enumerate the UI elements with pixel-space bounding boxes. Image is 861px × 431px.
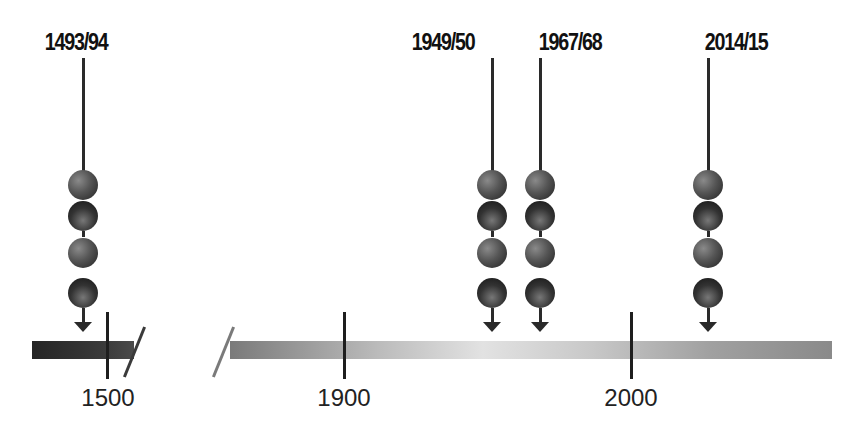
ball-icon xyxy=(68,170,98,200)
ball-icon xyxy=(693,278,723,308)
year-label-1500: 1500 xyxy=(81,384,134,412)
event-stem xyxy=(539,58,542,172)
ball-icon xyxy=(525,278,555,308)
event-stem xyxy=(491,58,494,172)
ball-joint xyxy=(539,231,542,237)
ball-icon xyxy=(477,278,507,308)
arrow-down-icon xyxy=(483,322,501,332)
ball-icon xyxy=(68,201,98,231)
ball-icon xyxy=(693,201,723,231)
ball-icon xyxy=(477,238,507,268)
ball-icon xyxy=(525,170,555,200)
ball-icon xyxy=(693,170,723,200)
ball-icon xyxy=(68,238,98,268)
ball-icon xyxy=(525,201,555,231)
ball-joint xyxy=(491,231,494,237)
event-stem xyxy=(82,58,85,172)
tick-1500 xyxy=(106,312,109,379)
event-label: 1493/94 xyxy=(45,28,108,56)
ball-joint xyxy=(82,231,85,237)
ball-icon xyxy=(477,170,507,200)
timeline-bar-modern xyxy=(230,341,832,359)
year-label-1900: 1900 xyxy=(317,384,370,412)
arrow-down-icon xyxy=(74,322,92,332)
arrow-shaft xyxy=(707,308,710,322)
ball-joint xyxy=(707,231,710,237)
ball-icon xyxy=(68,278,98,308)
ball-icon xyxy=(477,201,507,231)
arrow-down-icon xyxy=(699,322,717,332)
arrow-down-icon xyxy=(531,322,549,332)
tick-1900 xyxy=(343,312,346,379)
event-stem xyxy=(707,58,710,172)
tick-2000 xyxy=(630,312,633,379)
ball-icon xyxy=(693,238,723,268)
event-label: 1967/68 xyxy=(539,28,602,56)
ball-icon xyxy=(525,238,555,268)
arrow-shaft xyxy=(539,308,542,322)
arrow-shaft xyxy=(491,308,494,322)
arrow-shaft xyxy=(82,308,85,322)
year-label-2000: 2000 xyxy=(604,384,657,412)
event-label: 2014/15 xyxy=(705,28,768,56)
event-label: 1949/50 xyxy=(412,28,475,56)
timeline-bar-early xyxy=(32,341,134,359)
